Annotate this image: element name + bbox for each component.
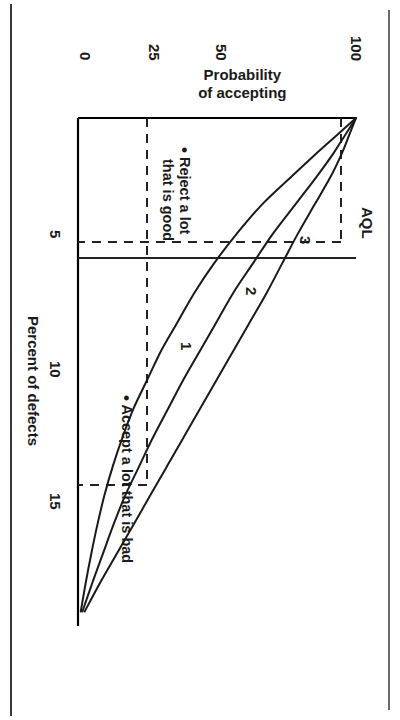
y-axis-title: Probability of accepting: [182, 66, 302, 101]
bullet-icon: •: [117, 395, 136, 401]
figure-rotator: 100 50 25 0 5 10 15 Probability of accep…: [22, 30, 378, 690]
y-axis-title-line2: of accepting: [182, 84, 302, 102]
annotation-reject-line1: • Reject a lot: [176, 147, 193, 241]
annotation-reject-a-lot-that-is-good: • Reject a lot that is good: [159, 147, 193, 241]
annotation-reject-text1: Reject a lot: [177, 157, 193, 234]
y-tick-label-50: 50: [212, 44, 230, 61]
annotation-reject-text2: that is good: [159, 147, 176, 241]
y-tick-label-0: 0: [76, 52, 94, 60]
annotation-accept-a-lot-that-is-bad: • Accept a lot that is bad: [118, 395, 135, 563]
aql-label: AQL: [358, 207, 376, 239]
x-axis-title: Percent of defects: [24, 316, 42, 446]
x-tick-label-15: 15: [46, 493, 64, 510]
plot-area: [22, 30, 378, 690]
y-axis-title-line1: Probability: [182, 66, 302, 84]
curve-label-3: 3: [296, 236, 314, 244]
oc-curve-figure: 100 50 25 0 5 10 15 Probability of accep…: [0, 0, 400, 720]
y-tick-label-25: 25: [145, 44, 163, 61]
x-tick-label-10: 10: [46, 361, 64, 378]
curve-label-1: 1: [177, 342, 195, 350]
annotation-accept-text: Accept a lot that is bad: [119, 404, 135, 563]
bullet-icon: •: [175, 147, 194, 153]
y-tick-label-100: 100: [347, 36, 365, 61]
curve-label-2: 2: [242, 287, 260, 295]
x-tick-label-5: 5: [46, 230, 64, 238]
